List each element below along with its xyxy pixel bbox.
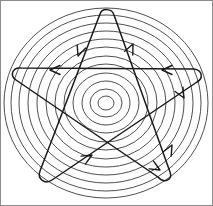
pentagram-concentric-circles-figure	[0, 0, 213, 206]
figure-container	[0, 0, 213, 206]
